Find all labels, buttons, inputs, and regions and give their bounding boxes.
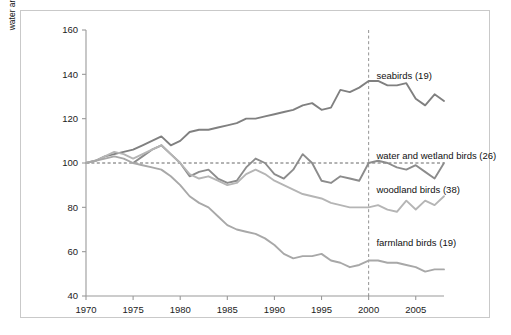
series-label-0: seabirds (19) — [376, 70, 431, 81]
x-tick-label: 2000 — [358, 304, 379, 315]
y-tick-label: 60 — [67, 246, 78, 257]
y-tick-label: 100 — [62, 157, 78, 168]
series-label-3: farmland birds (19) — [376, 237, 456, 248]
y-tick-label: 160 — [62, 24, 78, 35]
y-tick-label: 120 — [62, 113, 78, 124]
x-tick-label: 2005 — [405, 304, 426, 315]
x-tick-label: 1985 — [217, 304, 238, 315]
series-label-1: water and wetland birds (26) — [375, 150, 496, 161]
x-tick-label: 1970 — [75, 304, 96, 315]
x-tick-label: 1975 — [123, 304, 144, 315]
y-tick-label: 40 — [67, 290, 78, 301]
y-tick-label: 80 — [67, 202, 78, 213]
y-tick-label: 140 — [62, 69, 78, 80]
x-tick-label: 1980 — [170, 304, 191, 315]
chart-stage: 4060801001201401601970197519801985199019… — [0, 0, 511, 335]
x-tick-label: 1990 — [264, 304, 285, 315]
x-tick-label: 1995 — [311, 304, 332, 315]
series-label-2: woodland birds (38) — [375, 184, 459, 195]
line-chart: 4060801001201401601970197519801985199019… — [0, 0, 511, 335]
